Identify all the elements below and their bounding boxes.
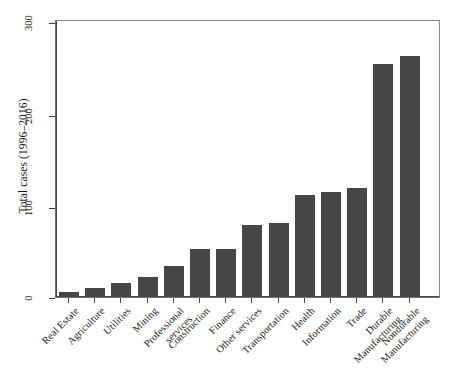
y-tick-label-100: 100 [23, 191, 35, 225]
bar [400, 56, 420, 296]
x-tick-mark [120, 298, 121, 303]
bar [295, 195, 315, 296]
bar [138, 277, 158, 296]
bar [347, 188, 367, 296]
x-tick-mark [173, 298, 174, 303]
x-tick-mark [225, 298, 226, 303]
y-tick-label-200: 200 [23, 99, 35, 133]
bar [269, 223, 289, 296]
bar [59, 292, 79, 296]
x-tick-mark [94, 298, 95, 303]
bar [373, 64, 393, 296]
bar [321, 192, 341, 297]
x-tick-mark [251, 298, 252, 303]
bar [111, 283, 131, 296]
plot-area [55, 20, 440, 298]
x-tick-mark [278, 298, 279, 303]
bar-series [56, 21, 439, 296]
y-tick-label-300: 300 [23, 6, 35, 40]
x-tick-mark [147, 298, 148, 303]
bar [216, 249, 236, 296]
x-tick-mark [199, 298, 200, 303]
bar [190, 249, 210, 296]
bar [85, 288, 105, 296]
x-tick-mark [356, 298, 357, 303]
x-tick-mark [409, 298, 410, 303]
x-axis-line [56, 296, 439, 297]
bar-chart-figure: Total cases (1996–2016) 0 100 200 300 Re… [0, 0, 455, 386]
x-tick-mark [382, 298, 383, 303]
bar [242, 225, 262, 296]
y-axis-title: Total cases (1996–2016) [14, 6, 32, 306]
bar [164, 266, 184, 296]
y-tick-mark-0 [49, 298, 55, 299]
y-tick-label-0: 0 [23, 281, 35, 315]
x-tick-mark [330, 298, 331, 303]
x-tick-mark [68, 298, 69, 303]
x-tick-mark [304, 298, 305, 303]
